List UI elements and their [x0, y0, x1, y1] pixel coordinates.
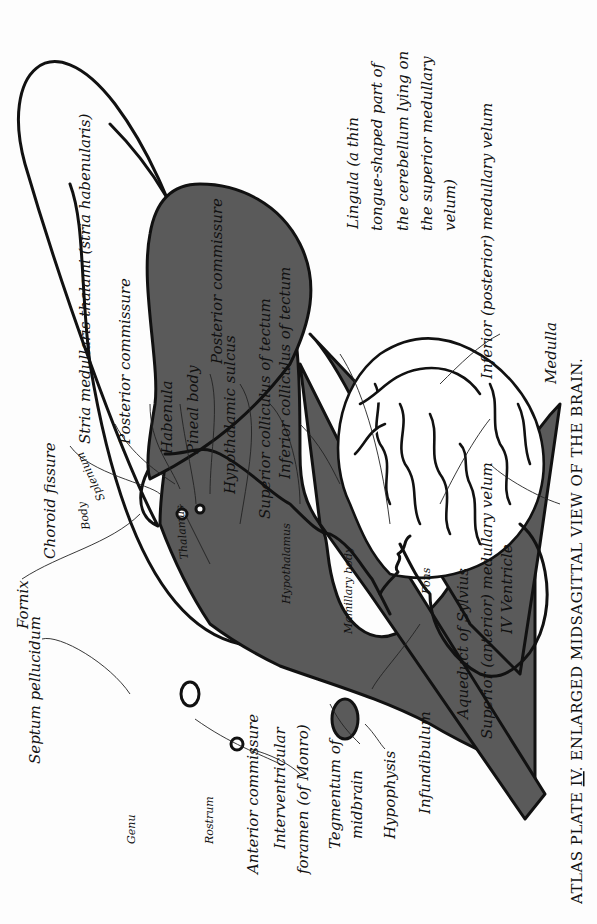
label-lingula-5: velum) [441, 179, 459, 231]
label-hypothalamus: Hypothalamus [280, 523, 293, 605]
label-splenium: Splenium [74, 450, 108, 503]
label-medulla: Medulla [542, 322, 560, 385]
label-fourth-ventricle: IV Ventricle [498, 544, 516, 635]
label-hypothalamic-sulcus: Hypothalamic sulcus [221, 335, 239, 495]
label-inferior-colliculus: Inferior colliculus of tectum [276, 267, 294, 480]
label-habenula: Habenula [158, 380, 176, 455]
caption-suffix: . ENLARGED MIDSAGITTAL VIEW OF THE BRAIN… [568, 358, 586, 771]
label-interventricular-2: foramen (of Monro) [294, 724, 312, 875]
label-tegmentum-2: midbrain [348, 770, 366, 839]
interventricular-foramen [181, 682, 199, 706]
label-choroid-fissure: Choroid fissure [41, 442, 59, 559]
label-pineal-body: Pineal body [184, 365, 202, 455]
brain-diagram: Septum pellucidum Fornix Choroid fissure… [0, 0, 597, 924]
label-superior-medullary-velum: Superior (anterior) medullary velum [478, 462, 496, 739]
label-mamillary-body: Mamillary body [342, 546, 355, 635]
label-tegmentum-1: Tegmentum of [326, 737, 344, 849]
label-stria-medullaris: Stria medullaris thalami (stria habenula… [76, 113, 94, 444]
label-body: Body [75, 500, 93, 532]
atlas-plate: Septum pellucidum Fornix Choroid fissure… [0, 0, 597, 924]
label-pons: Pons [420, 567, 433, 595]
plate-caption: ATLAS PLATE IV. ENLARGED MIDSAGITTAL VIE… [568, 358, 586, 905]
label-interventricular-1: Interventricular [271, 727, 289, 850]
label-infundibulum: Infundibulum [416, 711, 434, 815]
label-lingula-4: the superior medullary [418, 56, 436, 231]
label-lingula-3: the cerebellum lying on [394, 51, 412, 231]
label-lingula-1: Lingula (a thin [344, 117, 362, 230]
label-inferior-medullary-velum: Inferior (posterior) medullary velum [478, 103, 496, 380]
label-hypophysis: Hypophysis [381, 751, 399, 840]
label-rostrum: Rostrum [203, 796, 216, 845]
label-septum-pellucidum: Septum pellucidum [26, 616, 44, 764]
label-posterior-commissure-upper: Posterior commissure [116, 278, 134, 445]
label-anterior-commissure: Anterior commissure [244, 714, 262, 876]
caption-prefix: ATLAS PLATE [568, 786, 586, 905]
pineal-circle [196, 505, 204, 513]
label-lingula-2: tongue-shaped part of [368, 60, 386, 231]
hypophysis-blob [332, 699, 358, 739]
label-aqueduct: Aqueduct of Sylvius [454, 568, 472, 721]
label-superior-colliculus: Superior colliculus of tectum [256, 298, 274, 519]
cerebellum [338, 338, 544, 577]
label-fornix: Fornix [14, 580, 32, 630]
label-genu: Genu [125, 815, 138, 844]
